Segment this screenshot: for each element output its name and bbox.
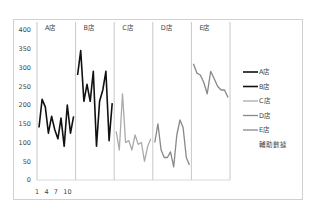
panel-label: E店 bbox=[199, 23, 210, 32]
y-tick-label: 400 bbox=[19, 26, 31, 34]
y-tick-label: 300 bbox=[19, 64, 31, 72]
legend-label: 輔助數據 bbox=[259, 140, 287, 149]
series-line bbox=[116, 94, 151, 162]
panel-label: D店 bbox=[161, 23, 173, 32]
y-tick-label: 150 bbox=[19, 120, 31, 128]
series-line bbox=[78, 51, 113, 147]
y-tick-label: 200 bbox=[19, 101, 31, 109]
legend-label: A店 bbox=[259, 67, 270, 76]
y-tick-label: 0 bbox=[27, 176, 31, 184]
legend-label: D店 bbox=[259, 111, 271, 120]
series-line bbox=[39, 99, 74, 146]
line-chart: 050100150200250300350400A店B店C店D店E店14710A… bbox=[0, 0, 313, 213]
x-tick-label: 4 bbox=[44, 188, 48, 196]
y-tick-label: 100 bbox=[19, 139, 31, 147]
panel-label: C店 bbox=[122, 23, 134, 32]
x-tick-label: 7 bbox=[54, 188, 58, 196]
x-tick-label: 10 bbox=[63, 188, 71, 196]
legend-label: E店 bbox=[259, 125, 270, 134]
y-tick-label: 250 bbox=[19, 83, 31, 91]
panel-label: A店 bbox=[45, 23, 56, 32]
legend-label: C店 bbox=[259, 96, 271, 105]
series-line bbox=[193, 64, 228, 98]
panel-label: B店 bbox=[84, 23, 95, 32]
legend-label: B店 bbox=[259, 82, 270, 91]
y-tick-label: 50 bbox=[23, 158, 31, 166]
y-tick-label: 350 bbox=[19, 45, 31, 53]
series-line bbox=[155, 120, 190, 167]
x-tick-label: 1 bbox=[35, 188, 39, 196]
